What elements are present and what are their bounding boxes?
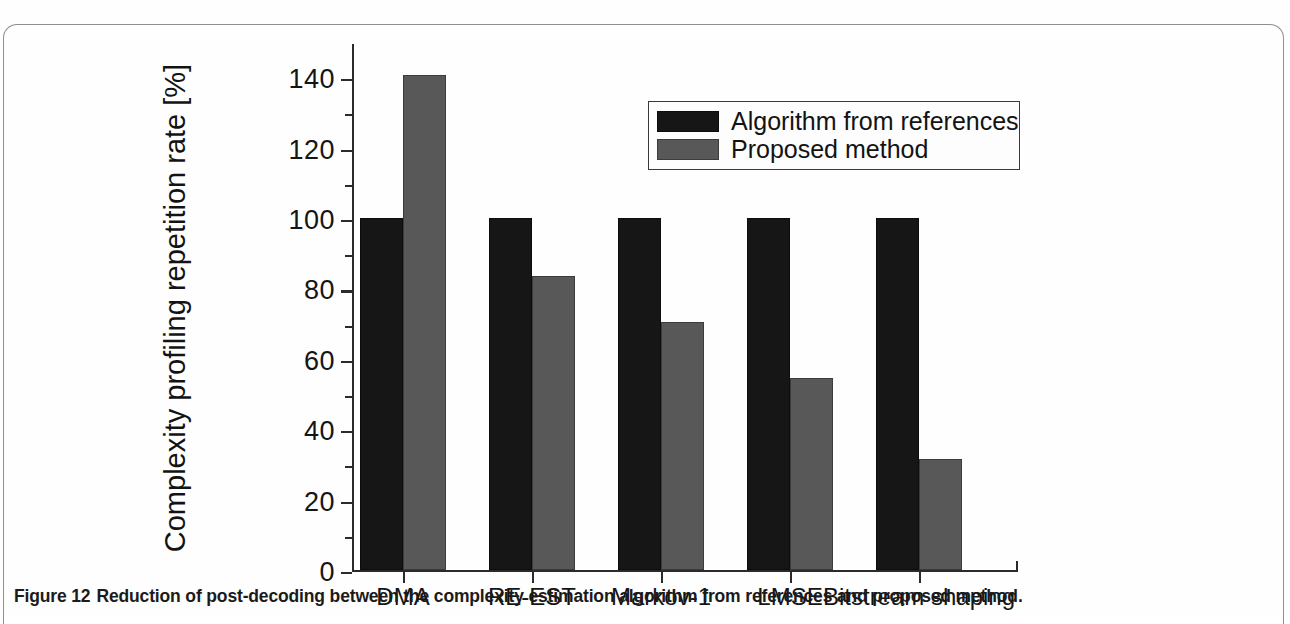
bar-reference [747, 218, 790, 570]
y-tick-label: 40 [304, 416, 335, 447]
legend-swatch-proposed [657, 139, 719, 160]
bar-reference [489, 218, 532, 570]
bar-reference [360, 218, 403, 570]
x-tick-mark [790, 572, 792, 583]
legend-label-proposed: Proposed method [731, 135, 928, 164]
bar-proposed [403, 75, 446, 570]
figure-chart-area: Complexity profiling repetition rate [%]… [0, 0, 1290, 580]
y-tick-mark [341, 220, 352, 222]
figure-caption-text: Reduction of post-decoding between the c… [96, 586, 1022, 606]
y-tick-mark-minor [345, 466, 352, 468]
y-tick-mark [341, 361, 352, 363]
y-tick-mark-minor [345, 396, 352, 398]
y-tick-mark [341, 150, 352, 152]
legend-swatch-reference [657, 111, 719, 132]
y-tick-label: 60 [304, 345, 335, 376]
figure-caption-number: Figure 12 [14, 586, 90, 606]
legend-entry-reference: Algorithm from references [657, 107, 1011, 135]
bar-group [489, 42, 575, 570]
x-tick-mark [919, 572, 921, 583]
x-tick-mark [403, 572, 405, 583]
y-axis-title: Complexity profiling repetition rate [%] [155, 44, 195, 572]
y-tick-label: 140 [288, 64, 335, 95]
legend-entry-proposed: Proposed method [657, 135, 1011, 163]
y-tick-mark-minor [345, 185, 352, 187]
y-tick-label: 120 [288, 134, 335, 165]
chart-legend: Algorithm from references Proposed metho… [648, 101, 1020, 170]
x-tick-mark [532, 572, 534, 583]
y-tick-mark-minor [345, 255, 352, 257]
y-tick-mark [341, 290, 352, 292]
y-tick-label: 80 [304, 275, 335, 306]
y-tick-mark-minor [345, 537, 352, 539]
x-tick-mark [661, 572, 663, 583]
y-tick-mark [341, 79, 352, 81]
y-tick-mark [341, 431, 352, 433]
figure-caption: Figure 12Reduction of post-decoding betw… [14, 586, 1269, 607]
y-tick-label: 20 [304, 486, 335, 517]
bar-reference [876, 218, 919, 570]
bar-proposed [661, 322, 704, 570]
y-tick-label: 100 [288, 205, 335, 236]
bar-proposed [790, 378, 833, 570]
x-axis-end-tick [1016, 561, 1018, 572]
y-tick-label: 0 [319, 557, 335, 588]
y-tick-mark [341, 572, 352, 574]
bar-reference [618, 218, 661, 570]
bar-proposed [532, 276, 575, 570]
y-axis-line [352, 44, 354, 572]
bar-proposed [919, 459, 962, 570]
y-tick-mark-minor [345, 114, 352, 116]
legend-label-reference: Algorithm from references [731, 107, 1019, 136]
bar-group [360, 42, 446, 570]
y-tick-mark [341, 502, 352, 504]
y-tick-mark-minor [345, 326, 352, 328]
